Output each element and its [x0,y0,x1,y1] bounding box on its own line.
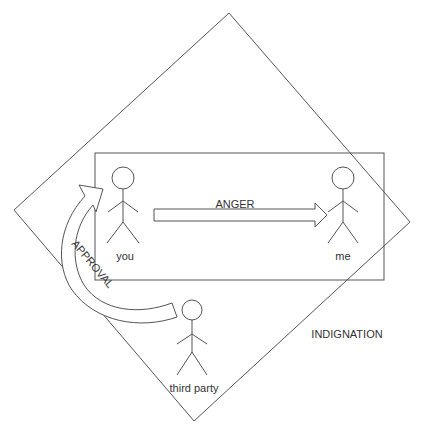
actor-you-icon [107,167,139,243]
actor-me-icon [328,167,358,243]
indignation-label: INDIGNATION [311,328,382,340]
diagram-canvas: APPROVAL ANGER you me third party INDIGN… [0,0,423,431]
actor-third-party-label: third party [170,382,219,394]
anger-label: ANGER [215,198,254,210]
actor-me-label: me [335,250,350,262]
actor-third-party-icon [177,300,207,375]
actor-you-label: you [116,250,134,262]
